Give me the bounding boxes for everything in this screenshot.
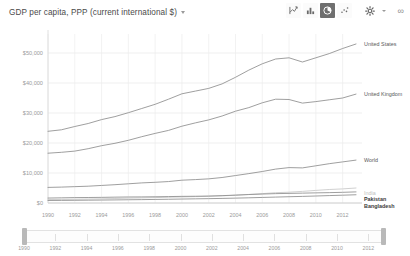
series-label-bangladesh[interactable]: Bangladesh [364,203,395,209]
chart-header: GDP per capita, PPP (current internation… [0,0,410,24]
range-slider-tick-label: 1996 [112,245,124,251]
chevron-down-icon[interactable] [181,11,185,14]
series-line-world[interactable] [48,160,356,187]
chart-app: GDP per capita, PPP (current internation… [0,0,410,256]
range-slider[interactable]: 1990199219941996199820002002200420062008… [0,228,410,256]
range-slider-right-handle[interactable] [381,228,386,245]
series-label-united-kingdom[interactable]: United Kingdom [364,91,402,97]
range-slider-tick [337,234,338,241]
x-axis-tick: 1994 [96,212,108,218]
chart-toolbar: ∞ [285,3,406,18]
range-slider-tick [55,234,56,241]
range-slider-track[interactable] [24,230,384,243]
range-slider-tick-label: 1990 [18,245,30,251]
range-slider-tick [149,234,150,241]
chart-plot-area: $0$10,000$20,000$30,000$40,000$50,000 Un… [0,26,410,212]
x-axis-tick: 1996 [122,212,134,218]
gear-icon[interactable] [363,3,378,18]
x-axis-tick: 2012 [337,212,349,218]
range-slider-tick-label: 2010 [331,245,343,251]
range-slider-tick-label: 1994 [81,245,93,251]
x-axis-tick: 2008 [283,212,295,218]
bar-chart-icon[interactable] [303,3,318,18]
x-axis-labels: 1990199219941996199820002002200420062008… [0,212,410,224]
series-label-pakistan[interactable]: Pakistan [364,196,386,202]
range-slider-tick [243,234,244,241]
range-slider-tick-label: 1992 [50,245,62,251]
page-title: GDP per capita, PPP (current internation… [9,8,177,17]
range-slider-left-handle[interactable] [22,228,27,245]
chart-type-group [285,3,353,18]
line-chart-icon[interactable] [286,3,301,18]
x-axis-tick: 2006 [256,212,268,218]
x-axis-tick: 2010 [310,212,322,218]
more-options-icon[interactable]: ∞ [398,6,403,16]
x-axis-tick: 1992 [69,212,81,218]
x-axis-tick: 2000 [176,212,188,218]
range-slider-tick [368,234,369,241]
range-slider-tick [181,234,182,241]
range-slider-tick-label: 2000 [175,245,187,251]
range-slider-tick-label: 2006 [269,245,281,251]
x-axis-tick: 1990 [42,212,54,218]
range-slider-tick-label: 2002 [206,245,218,251]
chart-canvas [0,26,410,212]
x-axis-tick: 2004 [230,212,242,218]
range-slider-tick [306,234,307,241]
range-slider-tick-label: 2012 [363,245,375,251]
series-line-united-kingdom[interactable] [48,94,356,153]
range-slider-tick-label: 2004 [237,245,249,251]
scatter-chart-icon[interactable] [337,3,352,18]
range-slider-tick [212,234,213,241]
x-axis-tick: 1998 [149,212,161,218]
series-label-united-states[interactable]: United States [364,41,396,47]
series-label-world[interactable]: World [364,157,378,163]
series-line-pakistan[interactable] [48,192,356,198]
range-slider-tick-label: 2008 [300,245,312,251]
range-slider-tick-label: 1998 [143,245,155,251]
range-slider-tick [87,234,88,241]
x-axis-tick: 2002 [203,212,215,218]
settings-chevron-down-icon[interactable] [382,10,386,12]
pie-chart-icon[interactable] [320,3,335,18]
range-slider-tick [274,234,275,241]
indicator-selector[interactable]: GDP per capita, PPP (current internation… [9,8,185,17]
range-slider-tick [118,234,119,241]
series-line-united-states[interactable] [48,44,356,131]
